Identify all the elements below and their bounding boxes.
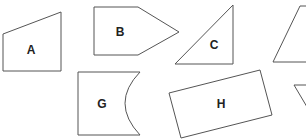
shape-c-label: C — [210, 38, 219, 52]
shape-d-partial — [273, 6, 306, 62]
shape-c-triangle — [175, 5, 233, 64]
shape-b-pentagon — [94, 7, 179, 55]
shape-h-label: H — [217, 97, 226, 111]
shapes-diagram: A B C G H — [0, 0, 306, 139]
shape-g-label: G — [97, 97, 106, 111]
shape-i-partial — [294, 85, 306, 112]
shape-a-trapezoid — [3, 12, 61, 71]
shape-b-label: B — [116, 25, 125, 39]
shape-a-label: A — [27, 43, 36, 57]
shape-g-concave — [78, 72, 140, 135]
